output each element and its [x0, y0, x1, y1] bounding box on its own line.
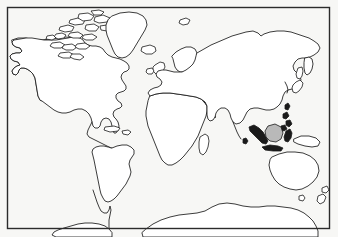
world-map-svg	[0, 0, 338, 237]
landmass-iceland	[141, 45, 156, 54]
landmass-cuba	[104, 126, 120, 132]
world-map-figure	[0, 0, 338, 237]
landmass-ireland	[146, 68, 154, 74]
